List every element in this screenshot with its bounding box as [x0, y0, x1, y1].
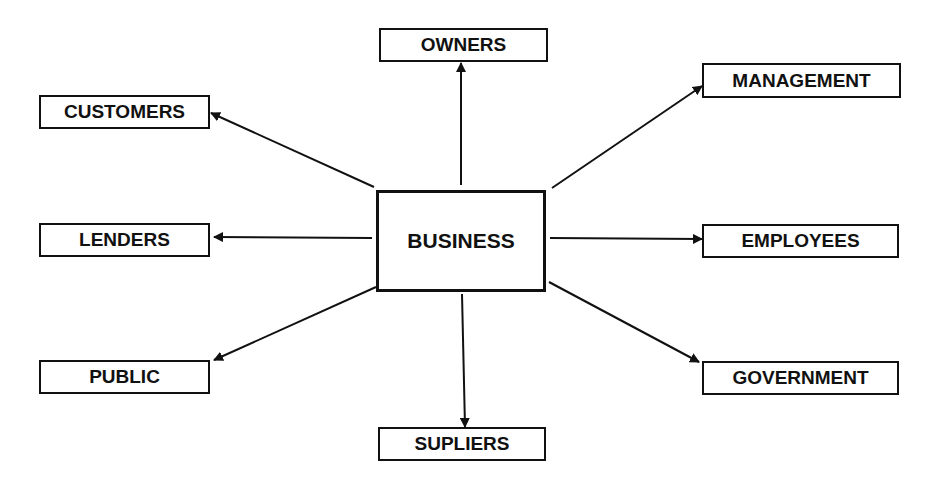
- lenders-label: LENDERS: [79, 229, 170, 251]
- stakeholder-diagram: BUSINESS OWNERS MANAGEMENT CUSTOMERS LEN…: [0, 0, 938, 489]
- employees-node: EMPLOYEES: [702, 224, 899, 258]
- arrow-business-to-management: [552, 86, 702, 188]
- public-node: PUBLIC: [39, 360, 210, 394]
- owners-node: OWNERS: [379, 28, 548, 62]
- arrow-business-to-supliers: [462, 294, 465, 427]
- arrow-business-to-customers: [211, 113, 374, 187]
- government-node: GOVERNMENT: [702, 361, 899, 395]
- arrow-business-to-employees: [550, 238, 702, 239]
- business-node: BUSINESS: [376, 190, 546, 292]
- customers-label: CUSTOMERS: [64, 101, 185, 123]
- business-label: BUSINESS: [407, 229, 514, 253]
- lenders-node: LENDERS: [39, 223, 210, 257]
- public-label: PUBLIC: [89, 366, 160, 388]
- management-label: MANAGEMENT: [732, 70, 870, 92]
- owners-label: OWNERS: [421, 34, 507, 56]
- arrow-business-to-lenders: [214, 237, 372, 238]
- arrow-business-to-government: [549, 282, 699, 362]
- employees-label: EMPLOYEES: [741, 230, 859, 252]
- supliers-node: SUPLIERS: [378, 427, 546, 461]
- customers-node: CUSTOMERS: [39, 95, 210, 129]
- government-label: GOVERNMENT: [732, 367, 868, 389]
- arrow-business-to-public: [214, 287, 376, 360]
- supliers-label: SUPLIERS: [414, 433, 509, 455]
- management-node: MANAGEMENT: [702, 63, 901, 98]
